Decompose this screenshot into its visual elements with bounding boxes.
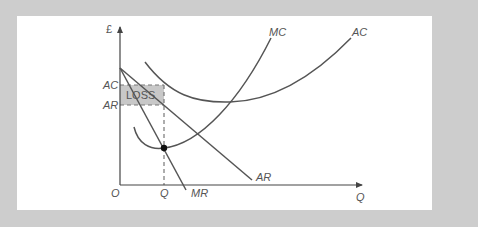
quantity-label: Q	[160, 187, 169, 199]
mr-curve-label: MR	[191, 187, 208, 199]
y-axis-label: £	[106, 23, 112, 35]
cost-revenue-diagram: £ MC AC AC AR LOSS AR MR O Q Q	[0, 0, 478, 227]
loss-label: LOSS	[126, 89, 155, 101]
ac-curve-label: AC	[351, 26, 367, 38]
ac-price-label: AC	[102, 79, 118, 91]
ar-curve-label: AR	[255, 171, 271, 183]
x-axis-label: Q	[356, 191, 365, 203]
ac-curve	[145, 38, 351, 102]
ar-curve	[120, 68, 252, 180]
origin-label: O	[111, 187, 120, 199]
ar-price-label: AR	[102, 99, 118, 111]
mc-label: MC	[269, 26, 286, 38]
mc-mr-intersection-point	[161, 145, 167, 151]
